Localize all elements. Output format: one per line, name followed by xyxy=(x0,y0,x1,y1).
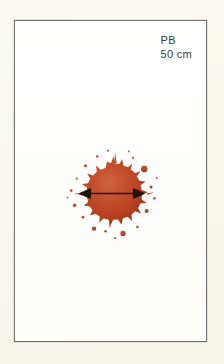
annotation-sample-id: PB xyxy=(161,33,192,47)
blood-stain-group xyxy=(59,143,163,243)
stain-body xyxy=(74,153,155,230)
sample-annotation: PB 50 cm xyxy=(161,33,192,61)
page-root: PB 50 cm xyxy=(0,0,224,364)
blood-stain-icon xyxy=(59,143,163,243)
annotation-distance: 50 cm xyxy=(161,47,192,61)
photo-card: PB 50 cm xyxy=(14,20,207,342)
